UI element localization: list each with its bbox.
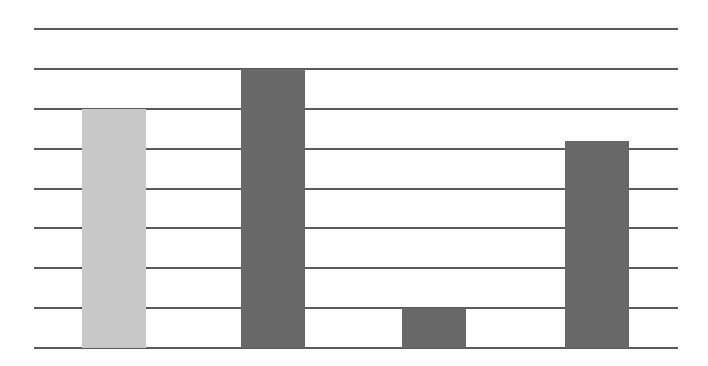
gridline: [34, 28, 678, 30]
gridline: [34, 68, 678, 70]
bar-1: [82, 109, 146, 348]
bar-chart: [0, 0, 708, 366]
bar-4: [565, 141, 629, 348]
bar-3: [402, 308, 466, 348]
bar-2: [241, 69, 305, 348]
